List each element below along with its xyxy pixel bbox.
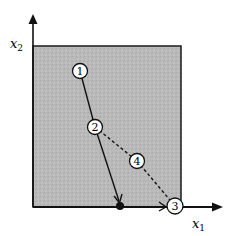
boundary-point (116, 202, 124, 210)
x-axis-label: x1 (192, 216, 205, 233)
svg-text:2: 2 (92, 121, 99, 134)
y-axis-arrow-icon (29, 14, 38, 24)
svg-text:3: 3 (172, 200, 179, 213)
diagram-canvas: x2 x1 1 2 4 3 (0, 0, 235, 236)
node-1: 1 (73, 64, 88, 79)
feasible-region (33, 46, 181, 207)
x-axis-arrow-icon (212, 203, 223, 212)
node-4: 4 (130, 154, 145, 169)
svg-text:1: 1 (77, 65, 84, 78)
svg-text:4: 4 (134, 155, 141, 168)
y-axis-label: x2 (10, 36, 23, 53)
node-2: 2 (88, 120, 103, 135)
node-3: 3 (167, 198, 183, 214)
